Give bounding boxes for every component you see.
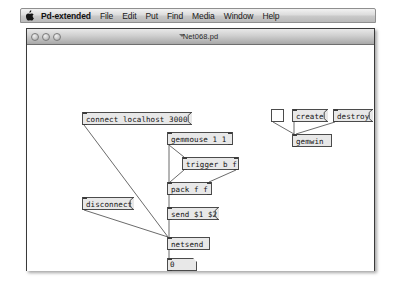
pd-message-sendmsg[interactable]: send $1 $2 [167, 207, 219, 220]
pd-message-create[interactable]: create [292, 109, 328, 122]
pd-port-nub[interactable] [168, 132, 172, 134]
screen-root: Pd-extended File Edit Put Find Media Win… [0, 0, 401, 283]
pd-port-nub[interactable] [168, 258, 172, 260]
pd-port-nub[interactable] [293, 109, 297, 111]
patch-cord[interactable] [273, 122, 294, 134]
window-controls [31, 33, 61, 41]
menu-item-file[interactable]: File [100, 11, 113, 21]
patch-cord[interactable] [84, 210, 168, 237]
pd-message-disconnect[interactable]: disconnect [82, 197, 134, 210]
pd-port-nub[interactable] [168, 219, 172, 221]
pd-port-nub[interactable] [168, 182, 172, 184]
pd-port-nub[interactable] [168, 237, 172, 239]
pd-box-label: netsend [171, 240, 203, 249]
pd-object-gemmouse[interactable]: gemmouse 1 1 [167, 132, 233, 145]
pd-toggle-toggle[interactable] [271, 109, 284, 122]
menu-app-name[interactable]: Pd-extended [41, 11, 91, 21]
window-title-bar[interactable]: Net068.pd [27, 29, 374, 45]
menu-item-edit[interactable]: Edit [122, 11, 136, 21]
pd-port-nub[interactable] [207, 182, 211, 184]
patch-cord[interactable] [169, 145, 184, 157]
menu-item-media[interactable]: Media [192, 11, 215, 21]
pd-port-nub[interactable] [207, 194, 211, 196]
menu-item-help[interactable]: Help [262, 11, 279, 21]
patch-cord[interactable] [170, 170, 184, 182]
patch-window: Net068.pd connect localhost 3000disconne… [26, 28, 375, 271]
pd-number-value: 0 [170, 260, 175, 269]
zoom-button[interactable] [53, 33, 61, 41]
pd-box-label: create [296, 112, 324, 121]
pd-port-nub[interactable] [83, 124, 87, 126]
pd-port-nub[interactable] [168, 207, 172, 209]
pd-box-label: pack f f [171, 185, 208, 194]
patch-cord[interactable] [209, 170, 236, 182]
menu-item-window[interactable]: Window [224, 11, 254, 21]
menu-item-put[interactable]: Put [145, 11, 157, 21]
pd-port-nub[interactable] [183, 157, 187, 159]
close-button[interactable] [31, 33, 39, 41]
pd-port-nub[interactable] [334, 109, 338, 111]
pd-message-destroy[interactable]: destroy [333, 109, 373, 122]
pd-box-label: destroy [337, 112, 369, 121]
pd-port-nub[interactable] [334, 121, 338, 123]
pd-object-pack[interactable]: pack f f [167, 182, 212, 195]
pd-port-nub[interactable] [83, 112, 87, 114]
pd-port-nub[interactable] [168, 194, 172, 196]
pd-box-label: gemmouse 1 1 [171, 135, 226, 144]
minimize-button[interactable] [42, 33, 50, 41]
pd-object-gemwin[interactable]: gemwin [292, 134, 332, 147]
pd-box-label: send $1 $2 [171, 210, 217, 219]
pd-object-trigger[interactable]: trigger b f [182, 157, 239, 170]
pd-port-nub[interactable] [293, 121, 297, 123]
apple-icon[interactable] [25, 10, 36, 22]
pd-port-nub[interactable] [293, 146, 297, 148]
pd-port-nub[interactable] [168, 144, 172, 146]
pd-object-netsend[interactable]: netsend [167, 237, 210, 250]
pd-port-nub[interactable] [234, 169, 238, 171]
pd-message-connect[interactable]: connect localhost 3000 [82, 112, 192, 125]
pd-port-nub[interactable] [83, 209, 87, 211]
pd-port-nub[interactable] [234, 157, 238, 159]
pd-port-nub[interactable] [168, 249, 172, 251]
pd-box-label: trigger b f [186, 160, 237, 169]
pd-port-nub[interactable] [293, 134, 297, 136]
pd-box-label: gemwin [296, 137, 324, 146]
window-title: Net068.pd [27, 32, 374, 41]
patch-cord[interactable] [296, 122, 335, 134]
pd-port-nub[interactable] [168, 270, 172, 272]
pd-box-label: disconnect [86, 200, 132, 209]
title-proxy-chevron-icon [179, 34, 185, 37]
pd-port-nub[interactable] [83, 197, 87, 199]
pd-box-label: connect localhost 3000 [86, 115, 188, 124]
pd-port-nub[interactable] [228, 132, 232, 134]
menu-item-find[interactable]: Find [167, 11, 183, 21]
menu-bar: Pd-extended File Edit Put Find Media Win… [20, 8, 376, 23]
pd-port-nub[interactable] [228, 144, 232, 146]
patch-cord[interactable] [84, 125, 168, 237]
patch-canvas[interactable]: connect localhost 3000disconnectgemmouse… [27, 45, 374, 271]
pd-port-nub[interactable] [183, 169, 187, 171]
